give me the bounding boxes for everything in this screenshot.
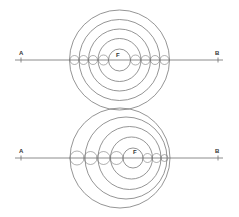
- label-b: B: [215, 148, 220, 154]
- label-a: A: [19, 148, 24, 154]
- label-f: F: [116, 52, 120, 58]
- diagram-stage: ABF ABF: [0, 0, 239, 217]
- label-b: B: [215, 50, 220, 56]
- label-a: A: [19, 50, 24, 56]
- concentric-circles-panel: ABF: [15, 10, 223, 110]
- label-f: F: [133, 149, 137, 155]
- circles-diagram: ABF ABF: [0, 0, 239, 217]
- eccentric-circles-panel: ABF: [15, 108, 223, 208]
